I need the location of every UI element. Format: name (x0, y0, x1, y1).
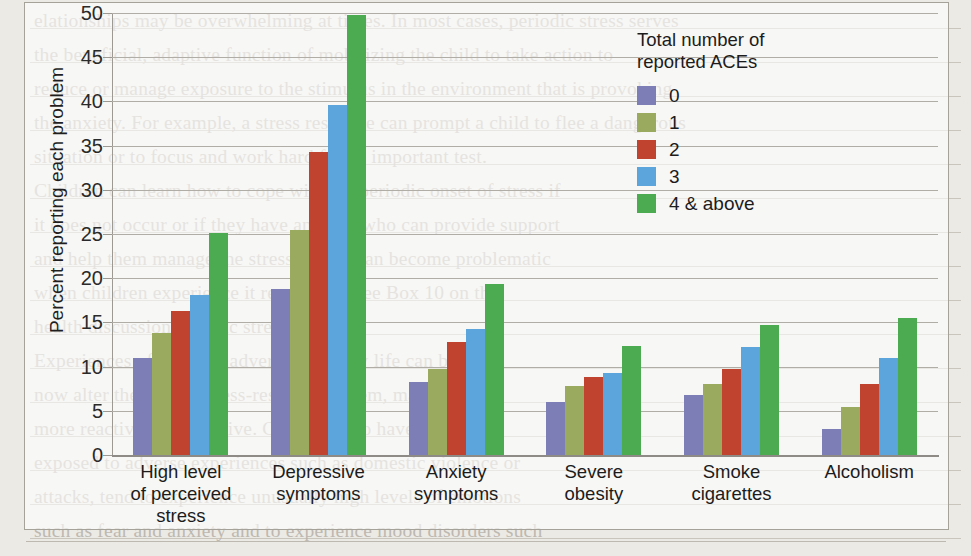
bar-group (387, 13, 525, 455)
bar[interactable] (860, 384, 879, 455)
bar[interactable] (722, 369, 741, 455)
bar[interactable] (622, 346, 641, 455)
bar-group (250, 13, 388, 455)
bar[interactable] (190, 295, 209, 455)
y-axis-tick (103, 57, 112, 58)
y-axis-tick-label: 45 (63, 46, 103, 69)
bar[interactable] (703, 384, 722, 455)
chart-legend: Total number of reported ACEs 01234 & ab… (637, 29, 867, 217)
y-axis-tick (103, 322, 112, 323)
legend-item[interactable]: 2 (637, 136, 867, 163)
bar[interactable] (546, 402, 565, 455)
y-axis-tick (103, 367, 112, 368)
bar[interactable] (741, 347, 760, 455)
bar[interactable] (760, 325, 779, 455)
bar[interactable] (466, 329, 485, 455)
bar[interactable] (347, 15, 366, 455)
x-axis-tick-label: Smokecigarettes (663, 461, 801, 505)
x-axis-tick-label: High levelof perceivedstress (112, 461, 250, 527)
bar[interactable] (584, 377, 603, 455)
y-axis-tick-label: 5 (63, 399, 103, 422)
bar[interactable] (447, 342, 466, 455)
legend-item-label: 0 (669, 85, 680, 107)
y-axis-tick-label: 40 (63, 90, 103, 113)
legend-title: Total number of reported ACEs (637, 29, 867, 73)
bar-group (112, 13, 250, 455)
legend-item[interactable]: 3 (637, 163, 867, 190)
bar[interactable] (485, 284, 504, 455)
scanned-book-page: elationships may be overwhelming at time… (0, 0, 971, 556)
legend-item[interactable]: 1 (637, 109, 867, 136)
bar[interactable] (271, 289, 290, 455)
legend-item-label: 4 & above (669, 193, 755, 215)
y-axis-tick-label: 20 (63, 267, 103, 290)
bar[interactable] (209, 233, 228, 455)
x-axis-tick-label: Depressivesymptoms (250, 461, 388, 505)
bar[interactable] (409, 382, 428, 455)
legend-item-label: 2 (669, 139, 680, 161)
legend-color-swatch (637, 140, 656, 159)
bar[interactable] (133, 358, 152, 455)
y-axis-tick (103, 278, 112, 279)
y-axis-title: Percent reporting each problem (46, 0, 68, 400)
y-axis-tick (103, 101, 112, 102)
y-axis-tick (103, 146, 112, 147)
scan-bottom-rule (26, 541, 946, 542)
y-axis-tick-label: 25 (63, 223, 103, 246)
legend-item[interactable]: 0 (637, 82, 867, 109)
x-axis-tick-label: Anxietysymptoms (387, 461, 525, 505)
bar[interactable] (841, 407, 860, 455)
legend-item[interactable]: 4 & above (637, 190, 867, 217)
y-axis-tick-label: 10 (63, 355, 103, 378)
bar[interactable] (603, 373, 622, 455)
chart-figure: 05101520253035404550 Percent reporting e… (24, 2, 949, 530)
y-axis-tick-label: 50 (63, 2, 103, 25)
legend-item-label: 3 (669, 166, 680, 188)
x-axis-line (112, 455, 939, 457)
legend-items: 01234 & above (637, 82, 867, 217)
bar[interactable] (428, 369, 447, 455)
bar[interactable] (309, 152, 328, 455)
bar[interactable] (171, 311, 190, 455)
bar[interactable] (822, 429, 841, 455)
y-axis-tick-label: 35 (63, 134, 103, 157)
legend-color-swatch (637, 194, 656, 213)
bar[interactable] (879, 358, 898, 455)
y-axis-tick-label: 0 (63, 444, 103, 467)
x-axis-tick-label: Severeobesity (525, 461, 663, 505)
legend-color-swatch (637, 167, 656, 186)
y-axis-tick (103, 411, 112, 412)
x-axis-tick-label: Alcoholism (800, 461, 938, 483)
bar[interactable] (152, 333, 171, 455)
bar[interactable] (290, 230, 309, 455)
bar[interactable] (684, 395, 703, 455)
y-axis-tick (103, 190, 112, 191)
y-axis-tick (103, 455, 112, 456)
y-axis-tick (103, 13, 112, 14)
y-axis-tick-label: 30 (63, 178, 103, 201)
bar[interactable] (328, 105, 347, 455)
legend-color-swatch (637, 113, 656, 132)
legend-color-swatch (637, 86, 656, 105)
y-axis-tick-label: 15 (63, 311, 103, 334)
bar[interactable] (565, 386, 584, 455)
legend-item-label: 1 (669, 112, 680, 134)
bar[interactable] (898, 318, 917, 455)
y-axis-tick (103, 234, 112, 235)
